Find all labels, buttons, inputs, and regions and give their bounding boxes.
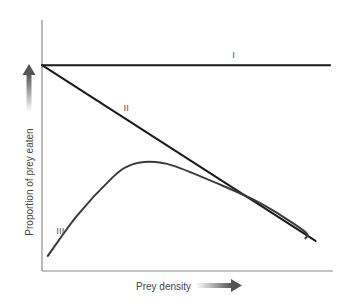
series-label-i: I bbox=[232, 49, 235, 60]
y-axis-arrow-icon bbox=[23, 64, 36, 112]
series-line-iii bbox=[48, 162, 308, 256]
y-axis-label: Proportion of prey eaten bbox=[24, 128, 35, 235]
series-label-iii: III bbox=[56, 225, 64, 236]
chart: IIIIII Proportion of prey eaten Prey den… bbox=[0, 0, 352, 308]
x-axis-label: Prey density bbox=[136, 281, 191, 292]
series-layer bbox=[42, 65, 330, 256]
series-label-ii: II bbox=[124, 102, 129, 113]
series-line-ii bbox=[42, 65, 316, 241]
x-axis-arrow-icon bbox=[196, 279, 242, 292]
